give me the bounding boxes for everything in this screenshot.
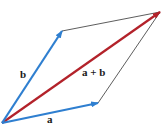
guide-line-right (98, 12, 160, 103)
label-b: b (20, 68, 26, 80)
label-a: a (47, 113, 53, 125)
label-sum: a + b (82, 66, 105, 78)
vector-diagram: a b a + b (0, 0, 166, 136)
vector-b (2, 31, 62, 123)
